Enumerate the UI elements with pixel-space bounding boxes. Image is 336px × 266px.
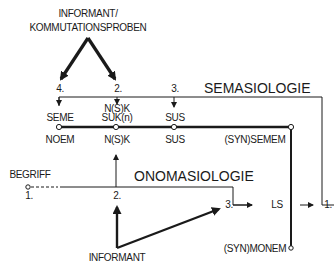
informant-bottom-label: INFORMANT bbox=[89, 252, 146, 263]
seme-label: SEME bbox=[46, 112, 73, 123]
suk-label: SUK(n) bbox=[102, 112, 133, 123]
ono-step-3: 3. bbox=[225, 199, 233, 210]
semasiology-title: SEMASIOLOGIE bbox=[204, 81, 311, 96]
nsk-lower-label: N(S)K bbox=[104, 134, 130, 145]
ono-step-1: 1. bbox=[25, 190, 33, 201]
sem-step-2: 2. bbox=[114, 83, 122, 94]
sus-upper-label: SUS bbox=[165, 112, 185, 123]
sem-end-step-1: 1. bbox=[324, 199, 332, 210]
diagram-canvas bbox=[0, 0, 336, 266]
onomasiology-title: ONOMASIOLOGIE bbox=[134, 169, 254, 184]
kommutationsproben-label: KOMMUTATIONSPROBEN bbox=[29, 22, 146, 33]
sus-lower-label: SUS bbox=[165, 134, 185, 145]
ls-label: LS bbox=[271, 199, 283, 210]
synmonem-label: (SYN)MONEM bbox=[224, 243, 287, 254]
synsemem-label: (SYN)SEMEM bbox=[225, 134, 286, 145]
informant-bottom-arrows bbox=[117, 207, 219, 248]
sem-step-4: 4. bbox=[56, 83, 64, 94]
informant-label-line1: INFORMANT/ bbox=[58, 8, 117, 19]
sem-step-3: 3. bbox=[171, 83, 179, 94]
semasiology-bracket bbox=[59, 97, 334, 205]
begriff-label: BEGRIFF bbox=[9, 169, 50, 180]
noem-label: NOEM bbox=[46, 134, 75, 145]
ono-step-2: 2. bbox=[113, 190, 121, 201]
informant-top-arrows bbox=[61, 38, 115, 79]
